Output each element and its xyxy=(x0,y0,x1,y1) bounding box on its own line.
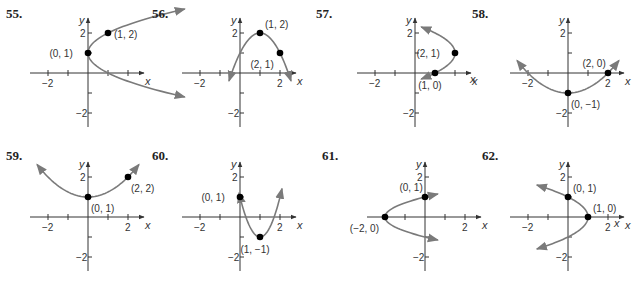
graph-grid: 55.−22−2xy(0, 1)(1, 2)56.−222−2xy(1, 2)(… xyxy=(0,0,638,285)
x-tick-label: 2 xyxy=(125,222,131,233)
y-axis-label: y xyxy=(230,14,238,26)
problem-number: 55. xyxy=(6,6,22,21)
data-point xyxy=(105,30,112,37)
y-tick-label: −2 xyxy=(228,252,240,263)
y-tick-label: −2 xyxy=(228,108,240,119)
x-tick-label: −2 xyxy=(194,222,206,233)
parabola-curve xyxy=(239,189,282,237)
graph-panel-60: 60.−222−2xy(0, 1)(1, −1) xyxy=(152,148,303,271)
x-tick-label: −2 xyxy=(522,222,534,233)
y-axis-label: y xyxy=(405,14,413,26)
data-point xyxy=(257,234,264,241)
y-tick-label: 2 xyxy=(232,172,238,183)
y-axis-label: y xyxy=(78,14,86,26)
x-axis-label: x xyxy=(296,219,303,231)
point-label: (2, 0) xyxy=(582,58,605,69)
x-tick-label: 2 xyxy=(277,222,283,233)
x-tick-label: 2 xyxy=(605,78,611,89)
data-point xyxy=(257,30,264,37)
data-point xyxy=(85,50,92,57)
data-point xyxy=(585,214,592,221)
x-tick-label: −2 xyxy=(42,78,54,89)
point-label: (1, 0) xyxy=(418,80,441,91)
point-label: (2, 2) xyxy=(131,183,154,194)
parabola-curve xyxy=(88,9,185,97)
y-tick-label: −2 xyxy=(556,252,568,263)
problem-number: 58. xyxy=(472,6,488,21)
data-point xyxy=(605,70,612,77)
graph-panel-61: 61.22−2xy(−2, 0)(0, 1) xyxy=(322,148,488,271)
x-tick-label: 2 xyxy=(462,222,468,233)
point-label: (0, 1) xyxy=(573,183,596,194)
x-axis-label: x xyxy=(624,219,631,231)
point-label: (0, 1) xyxy=(49,48,72,59)
data-point xyxy=(277,50,284,57)
data-point xyxy=(125,174,132,181)
y-tick-label: 2 xyxy=(560,28,566,39)
point-label: (1, 2) xyxy=(114,29,137,40)
point-label: (0, 1) xyxy=(91,203,114,214)
y-axis-label: y xyxy=(230,158,238,170)
y-tick-label: −2 xyxy=(76,108,88,119)
graph-panel-57: 57.−22−2xy(2, 1)(1, 0) xyxy=(316,6,478,127)
x-tick-label: 2 xyxy=(277,78,283,89)
y-tick-label: 2 xyxy=(560,172,566,183)
problem-number: 62. xyxy=(482,148,498,163)
x-tick-label: −2 xyxy=(42,222,54,233)
y-tick-label: 2 xyxy=(232,28,238,39)
y-tick-label: 2 xyxy=(80,172,86,183)
data-point xyxy=(422,194,429,201)
graph-panel-55: 55.−22−2xy(0, 1)(1, 2) xyxy=(6,6,185,127)
point-label: (2, 1) xyxy=(250,59,273,70)
data-point xyxy=(565,194,572,201)
y-tick-label: −2 xyxy=(76,252,88,263)
x-axis-label: x xyxy=(624,75,631,87)
data-point xyxy=(452,50,459,57)
x-axis-label: x xyxy=(144,219,151,231)
y-tick-label: 2 xyxy=(407,28,413,39)
x-tick-label: 2 xyxy=(605,222,611,233)
x-axis-label: x xyxy=(613,217,620,229)
problem-number: 57. xyxy=(316,6,332,21)
x-axis-label: x xyxy=(296,75,303,87)
point-label: (1, −1) xyxy=(240,244,269,255)
problem-number: 59. xyxy=(6,148,22,163)
point-label: (1, 2) xyxy=(265,19,288,30)
point-label: (0, 1) xyxy=(399,182,422,193)
point-label: (0, −1) xyxy=(571,99,600,110)
graph-panel-58: 58.−222−2xy(0, −1)(2, 0) xyxy=(472,6,631,127)
y-tick-label: −2 xyxy=(403,108,415,119)
y-axis-label: y xyxy=(415,158,423,170)
x-axis-label: x xyxy=(481,219,488,231)
graph-panel-56: 56.−222−2xy(1, 2)(2, 1) xyxy=(152,6,303,127)
graph-panel-62: 62.−222−2xy(0, 1)(1, 0) xyxy=(482,148,631,271)
data-point xyxy=(565,90,572,97)
problem-number: 56. xyxy=(152,6,168,21)
point-label: (1, 0) xyxy=(593,203,616,214)
graph-panel-59: 59.−222−2xy(0, 1)(2, 2) xyxy=(6,148,154,271)
data-point xyxy=(432,70,439,77)
data-point xyxy=(85,194,92,201)
x-axis-label: x xyxy=(144,75,151,87)
data-point xyxy=(237,194,244,201)
point-label: (0, 1) xyxy=(201,192,224,203)
point-label: (2, 1) xyxy=(416,48,439,59)
y-axis-label: y xyxy=(78,158,86,170)
problem-number: 61. xyxy=(322,148,338,163)
data-point xyxy=(382,214,389,221)
point-label: (−2, 0) xyxy=(350,223,379,234)
y-tick-label: −2 xyxy=(556,108,568,119)
x-tick-label: −2 xyxy=(522,78,534,89)
problem-number: 60. xyxy=(152,148,168,163)
y-axis-label: y xyxy=(558,158,566,170)
x-tick-label: −2 xyxy=(194,78,206,89)
y-tick-label: 2 xyxy=(80,28,86,39)
x-tick-label: −2 xyxy=(369,78,381,89)
y-axis-label: y xyxy=(558,14,566,26)
x-axis-label: x xyxy=(469,73,476,85)
y-tick-label: −2 xyxy=(413,252,425,263)
